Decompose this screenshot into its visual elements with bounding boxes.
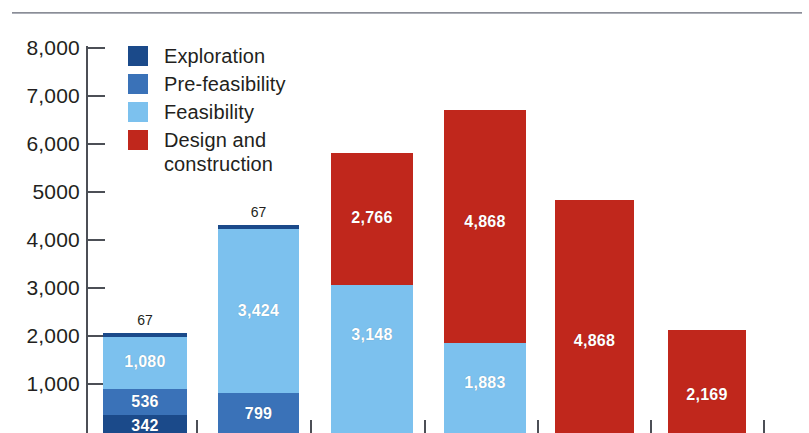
legend-item-pre-feasibility[interactable]: Pre-feasibility	[128, 72, 378, 100]
bar-column-5[interactable]: 4,868	[555, 200, 634, 433]
bar-3-label-feasibility: 3,148	[331, 327, 413, 343]
bar-column-2[interactable]: 67 3,424 799	[218, 225, 299, 433]
legend-swatch-exploration	[128, 46, 148, 66]
y-tick-label-5000: 5000	[2, 181, 80, 202]
bar-1-top-label: 67	[103, 313, 187, 327]
x-tick-2	[310, 420, 312, 433]
bar-3-segment-feasibility[interactable]: 3,148	[331, 285, 413, 433]
chart-page: 8,000 7,000 6,000 5000 4,000 3,000 2,000…	[0, 0, 809, 433]
stacked-bar-chart: 8,000 7,000 6,000 5000 4,000 3,000 2,000…	[0, 0, 809, 433]
bar-5-label-design: 4,868	[555, 333, 634, 349]
bar-6-segment-design[interactable]: 2,169	[668, 330, 746, 433]
y-tick-label-7000: 7,000	[2, 85, 80, 106]
legend-label-pre-feasibility: Pre-feasibility	[164, 72, 286, 96]
bar-1-segment-feasibility[interactable]: 1,080	[103, 337, 187, 389]
legend-label-exploration: Exploration	[164, 44, 265, 68]
bar-5-segment-design[interactable]: 4,868	[555, 200, 634, 433]
bar-4-segment-design[interactable]: 4,868	[444, 110, 526, 343]
legend-swatch-feasibility	[128, 102, 148, 122]
bar-2-segment-feasibility[interactable]: 3,424	[218, 229, 299, 393]
y-tick-8000	[88, 47, 105, 49]
bar-2-top-label: 67	[218, 205, 299, 219]
y-tick-label-6000: 6,000	[2, 133, 80, 154]
bar-2-label-feasibility: 3,424	[218, 303, 299, 319]
legend-label-feasibility: Feasibility	[164, 100, 254, 124]
legend-item-design-and-construction[interactable]: Design and construction	[128, 128, 378, 180]
bar-column-3[interactable]: 2,766 3,148	[331, 153, 413, 433]
bar-4-label-design: 4,868	[444, 214, 526, 230]
y-tick-label-2000: 2,000	[2, 325, 80, 346]
x-tick-1	[196, 420, 198, 433]
bar-4-label-feasibility: 1,883	[444, 375, 526, 391]
chart-legend: Exploration Pre-feasibility Feasibility …	[128, 44, 378, 180]
y-tick-3000	[88, 287, 105, 289]
bar-1-label-feasibility: 1,080	[103, 354, 187, 370]
x-tick-3	[424, 420, 426, 433]
bar-1-label-exploration: 342	[103, 418, 187, 433]
x-tick-6	[763, 420, 765, 433]
y-tick-label-3000: 3,000	[2, 277, 80, 298]
bar-6-label-design: 2,169	[668, 387, 746, 403]
bar-column-4[interactable]: 4,868 1,883	[444, 110, 526, 433]
y-tick-label-8000: 8,000	[2, 37, 80, 58]
bar-column-1[interactable]: 67 1,080 536 342	[103, 333, 187, 433]
legend-swatch-pre-feasibility	[128, 74, 148, 94]
y-tick-6000	[88, 143, 105, 145]
x-tick-5	[650, 420, 652, 433]
y-tick-label-4000: 4,000	[2, 229, 80, 250]
y-tick-5000	[88, 191, 105, 193]
bar-4-segment-feasibility[interactable]: 1,883	[444, 343, 526, 433]
x-tick-4	[537, 420, 539, 433]
bar-column-6[interactable]: 2,169	[668, 330, 746, 433]
bar-3-label-design: 2,766	[331, 210, 413, 226]
bar-2-label-pre-feasibility: 799	[218, 406, 299, 422]
legend-item-exploration[interactable]: Exploration	[128, 44, 378, 72]
legend-item-feasibility[interactable]: Feasibility	[128, 100, 378, 128]
bar-1-label-pre-feasibility: 536	[103, 394, 187, 410]
bar-1-segment-exploration[interactable]: 342	[103, 415, 187, 433]
bar-1-segment-pre-feasibility[interactable]: 536	[103, 389, 187, 415]
bar-2-segment-pre-feasibility[interactable]: 799	[218, 393, 299, 433]
y-tick-7000	[88, 95, 105, 97]
y-tick-label-1000: 1,000	[2, 373, 80, 394]
legend-label-design-and-construction: Design and construction	[164, 128, 273, 176]
y-tick-4000	[88, 239, 105, 241]
legend-swatch-design-and-construction	[128, 130, 148, 150]
